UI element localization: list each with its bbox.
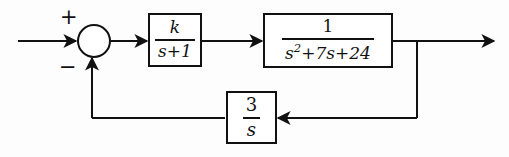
feedback-denominator: s	[244, 121, 259, 140]
block-diagram: + − k s+1 1 s2+7s+24 3 s	[0, 0, 509, 157]
plant2-denominator: s2+7s+24	[282, 42, 374, 63]
feedback-numerator: 3	[243, 96, 260, 115]
block-plant1: k s+1	[148, 13, 202, 67]
transfer-function-plant2: 1 s2+7s+24	[282, 18, 374, 62]
transfer-function-feedback: 3 s	[243, 96, 260, 140]
block-plant2: 1 s2+7s+24	[263, 13, 393, 68]
plus-sign-label: +	[60, 7, 78, 28]
plant1-numerator: k	[167, 19, 183, 37]
fraction-bar	[282, 38, 374, 40]
minus-sign-label: −	[59, 57, 77, 78]
plant2-numerator: 1	[320, 18, 337, 36]
block-feedback-sensor: 3 s	[226, 91, 277, 144]
plant2-denominator-suffix: +7s+24	[301, 43, 371, 63]
plant2-denominator-prefix: s	[285, 43, 294, 63]
summing-junction	[77, 24, 111, 58]
plant1-denominator: s+1	[155, 43, 195, 61]
transfer-function-plant1: k s+1	[155, 19, 195, 61]
